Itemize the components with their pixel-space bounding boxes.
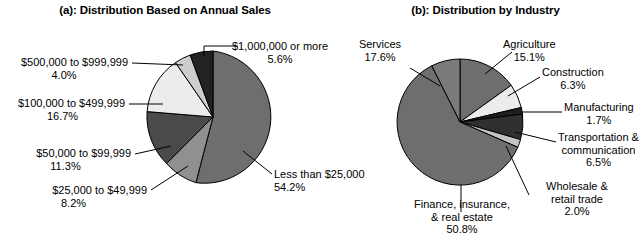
pie-b-label-finance-insurance-real-estate-pct: 50.8% [392, 223, 532, 236]
pie-a-svg [0, 0, 330, 248]
pie-b-label-services: Services 17.6% [346, 38, 414, 63]
pie-a-label-100000-499999-name: $100,000 to $499,999 [18, 97, 125, 109]
pie-a-label-50000-99999-pct: 11.3% [0, 160, 131, 173]
pie-b-label-finance-insurance-real-estate-name: Finance, insurance, [414, 198, 510, 210]
pie-b-label-finance-insurance-real-estate: Finance, insurance, & real estate 50.8% [392, 198, 532, 236]
pie-b-label-transportation-communication-name2: communication [558, 144, 639, 157]
pie-b-label-manufacturing-pct: 1.7% [564, 114, 634, 127]
pie-a-label-50000-99999: $50,000 to $99,999 11.3% [0, 147, 131, 172]
leader-line-wholesale [506, 146, 529, 195]
pie-b-label-wholesale-retail-trade-pct: 2.0% [532, 205, 622, 218]
pie-a-label-50000-99999-name: $50,000 to $99,999 [36, 147, 131, 159]
pie-a-label-500000-999999-name: $500,000 to $999,999 [21, 56, 128, 68]
pie-a-label-500000-999999-pct: 4.0% [0, 69, 128, 82]
pie-b-label-services-pct: 17.6% [346, 51, 414, 64]
pie-a-label-100000-499999-pct: 16.7% [0, 110, 125, 123]
pie-a-label-500000-999999: $500,000 to $999,999 4.0% [0, 56, 128, 81]
pie-b-label-finance-insurance-real-estate-name2: & real estate [392, 211, 532, 224]
pie-a-label-1000000-or-more-name: $1,000,000 or more [232, 40, 328, 52]
pie-b-label-construction-pct: 6.3% [542, 79, 604, 92]
leader-line-25000-49999 [151, 166, 188, 190]
pie-chart-panel-a: (a): Distribution Based on Annual Sales … [0, 0, 330, 248]
pie-b-label-transportation-communication: Transportation & communication 6.5% [558, 131, 639, 169]
leader-line-construction [508, 77, 540, 96]
pie-a-label-100000-499999: $100,000 to $499,999 16.7% [0, 97, 125, 122]
pie-a-label-25000-49999: $25,000 to $49,999 8.2% [0, 184, 147, 209]
pie-a-label-25000-49999-pct: 8.2% [0, 197, 147, 210]
pie-b-label-transportation-communication-pct: 6.5% [558, 156, 639, 169]
pie-b-label-agriculture: Agriculture 15.1% [503, 38, 556, 63]
pie-b-label-wholesale-retail-trade: Wholesale & retail trade 2.0% [532, 180, 622, 218]
pie-b-label-construction: Construction 6.3% [542, 66, 604, 91]
pie-b-label-agriculture-pct: 15.1% [503, 51, 556, 64]
pie-chart-panel-b: (b): Distribution by Industry Agricultur… [330, 0, 641, 248]
pie-a-label-25000-49999-name: $25,000 to $49,999 [52, 184, 147, 196]
pie-b-label-wholesale-retail-trade-name2: retail trade [532, 193, 622, 206]
pie-a-label-1000000-or-more-pct: 5.6% [232, 53, 328, 66]
pie-b-label-construction-name: Construction [542, 66, 604, 78]
pie-b-label-agriculture-name: Agriculture [503, 38, 556, 50]
pie-a-label-1000000-or-more: $1,000,000 or more 5.6% [232, 40, 328, 65]
pie-b-label-manufacturing-name: Manufacturing [564, 101, 634, 113]
pie-b-label-wholesale-retail-trade-name: Wholesale & [546, 180, 608, 192]
pie-b-label-transportation-communication-name: Transportation & [558, 131, 639, 143]
pie-b-label-manufacturing: Manufacturing 1.7% [564, 101, 634, 126]
pie-b-label-services-name: Services [359, 38, 401, 50]
